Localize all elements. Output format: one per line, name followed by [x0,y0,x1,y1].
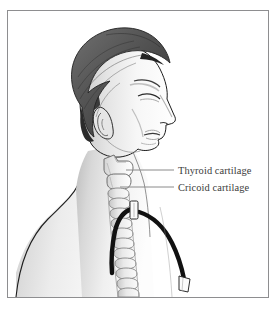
tracheostomy-neck-flange [130,201,138,219]
figure-root: Thyroid cartilage Cricoid cartilage [0,0,278,311]
label-thyroid-cartilage: Thyroid cartilage [178,165,252,176]
tracheostomy-connector-hub [179,276,190,292]
anatomy-illustration: Thyroid cartilage Cricoid cartilage [8,11,268,297]
label-cricoid-cartilage: Cricoid cartilage [178,182,250,193]
illustration-frame: Thyroid cartilage Cricoid cartilage [7,10,269,298]
